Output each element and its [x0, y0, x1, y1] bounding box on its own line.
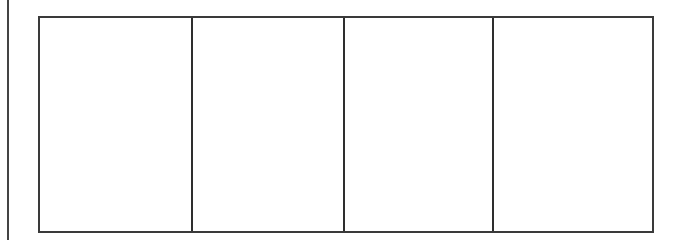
panel-3: [343, 18, 492, 231]
left-margin-line: [7, 0, 9, 240]
panel-4: [492, 18, 652, 231]
panel-1: [40, 18, 191, 231]
four-panel-frame: [38, 16, 654, 233]
panel-2: [191, 18, 343, 231]
